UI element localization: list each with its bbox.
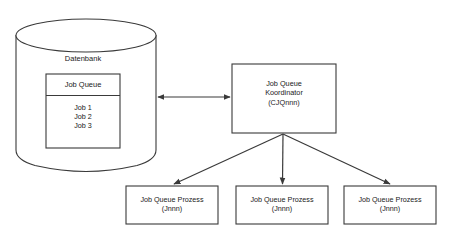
coordinator-line-3: (CJQnnn) xyxy=(232,98,336,107)
process-label-3: Job Queue Prozess (Jnnn) xyxy=(344,195,436,213)
process-3-line-2: (Jnnn) xyxy=(344,204,436,213)
job-queue-table-header: Job Queue xyxy=(46,80,120,90)
job-row-1: Job 1 xyxy=(46,103,120,112)
job-row-3: Job 3 xyxy=(46,121,120,130)
job-queue-table-rows: Job 1 Job 2 Job 3 xyxy=(46,103,120,131)
process-label-2: Job Queue Prozess (Jnnn) xyxy=(236,195,328,213)
connector-coordinator-process-2 xyxy=(283,134,284,184)
job-row-2: Job 2 xyxy=(46,112,120,121)
coordinator-line-1: Job Queue xyxy=(232,79,336,88)
coordinator-label: Job Queue Koordinator (CJQnnn) xyxy=(232,79,336,107)
database-caption: Datenbank xyxy=(46,54,120,64)
process-label-1: Job Queue Prozess (Jnnn) xyxy=(126,195,218,213)
process-3-line-1: Job Queue Prozess xyxy=(344,195,436,204)
process-2-line-2: (Jnnn) xyxy=(236,204,328,213)
process-2-line-1: Job Queue Prozess xyxy=(236,195,328,204)
connector-coordinator-process-3 xyxy=(283,134,390,184)
process-1-line-1: Job Queue Prozess xyxy=(126,195,218,204)
coordinator-line-2: Koordinator xyxy=(232,88,336,97)
process-1-line-2: (Jnnn) xyxy=(126,204,218,213)
diagram-canvas: Datenbank Job Queue Job 1 Job 2 Job 3 Jo… xyxy=(0,0,452,238)
connector-coordinator-process-1 xyxy=(174,134,283,184)
